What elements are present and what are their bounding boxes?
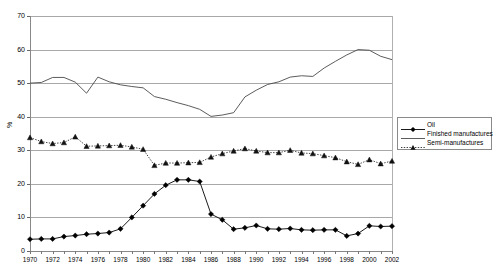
data-point-marker [208,154,213,159]
data-point-marker [322,227,327,232]
data-point-marker [254,223,259,228]
data-point-marker [208,211,213,216]
data-point-marker [27,237,32,242]
data-point-marker [344,159,349,164]
data-point-marker [276,227,281,232]
data-point-marker [107,143,112,148]
series-oil [27,177,394,242]
series-semi-manufactures [27,134,394,167]
data-point-marker [118,143,123,148]
data-point-marker [129,144,134,149]
data-point-marker [84,232,89,237]
data-point-marker [310,228,315,233]
series-line [30,137,392,166]
legend-item: Semi-manufactures [400,138,489,147]
data-point-marker [95,143,100,148]
data-point-marker [242,146,247,151]
data-point-marker [344,233,349,238]
data-point-marker [61,234,66,239]
legend-item: Finished manufactures [400,129,489,138]
data-point-marker [141,147,146,152]
data-point-marker [389,224,394,229]
legend-item: Oil [400,120,489,129]
data-point-marker [73,233,78,238]
data-point-marker [27,135,32,140]
data-point-marker [378,224,383,229]
series-line [30,50,392,117]
data-point-marker [242,225,247,230]
legend-key-icon [400,138,426,147]
data-point-marker [322,153,327,158]
data-point-marker [333,227,338,232]
data-point-marker [39,139,44,144]
data-point-marker [367,157,372,162]
data-point-marker [50,236,55,241]
data-point-marker [389,158,394,163]
data-point-marker [299,227,304,232]
data-point-marker [265,226,270,231]
legend-label: Semi-manufactures [426,138,483,147]
data-point-marker [367,223,372,228]
data-point-marker [288,226,293,231]
series-finished-manufactures [30,50,392,117]
data-point-marker [107,230,112,235]
data-point-marker [174,177,179,182]
data-point-marker [333,155,338,160]
legend-label: Finished manufactures [426,129,493,138]
data-point-marker [39,236,44,241]
data-point-marker [288,148,293,153]
data-point-marker [73,134,78,139]
legend: OilFinished manufacturesSemi-manufacture… [397,117,492,150]
data-point-marker [310,151,315,156]
data-point-marker [355,231,360,236]
data-point-marker [95,231,100,236]
chart-container: % 010203040506070 1970197219741976197819… [0,0,500,279]
data-point-marker [299,150,304,155]
legend-label: Oil [426,120,435,129]
legend-key-icon [400,120,426,129]
data-point-marker [61,140,66,145]
data-point-marker [197,179,202,184]
legend-key-icon [400,129,426,138]
data-point-marker [186,177,191,182]
